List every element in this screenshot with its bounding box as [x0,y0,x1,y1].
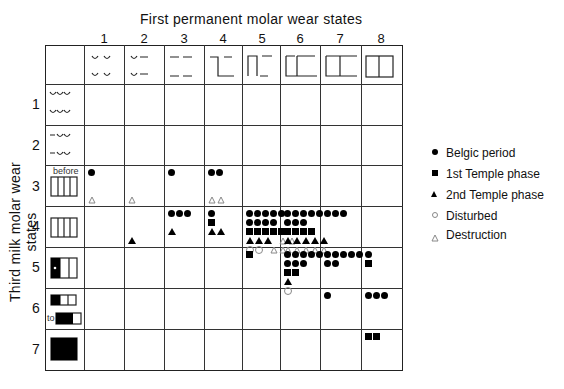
filled-circle-icon [340,210,347,217]
filled-square-icon [365,260,372,267]
filled-circle-icon [432,149,438,155]
filled-circle-icon [208,210,215,217]
cell-row4-col2 [128,210,137,246]
cell-row5-col8 [365,251,373,269]
filled-triangle-icon [128,237,136,244]
filled-circle-icon [324,210,331,217]
filled-circle-icon [246,210,253,217]
filled-square-icon [292,269,299,276]
open-triangle-icon [128,196,136,204]
filled-square-icon [208,219,215,226]
filled-triangle-icon [284,278,292,285]
open-triangle-icon [208,196,216,204]
filled-circle-icon [262,219,269,226]
filled-triangle-icon [431,191,437,197]
filled-circle-icon [262,210,269,217]
to-annotation: to [47,313,55,323]
filled-triangle-icon [255,237,263,244]
filled-circle-icon [348,251,355,258]
open-triangle-icon [431,231,439,245]
filled-circle-icon [332,210,339,217]
cell-row3-col2 [128,169,137,205]
filled-circle-icon [373,292,380,299]
cell-row3-col4 [208,169,226,205]
filled-circle-icon [316,251,323,258]
filled-circle-icon [340,251,347,258]
cell-row3-col3 [168,169,176,178]
filled-circle-icon [284,251,291,258]
filled-circle-icon [176,210,183,217]
filled-circle-icon [284,260,291,267]
filled-triangle-icon [246,237,254,244]
filled-circle-icon [208,169,215,176]
cell-row4-col4 [208,210,226,237]
cell-row6-col7 [324,292,332,301]
filled-square-icon [292,228,299,235]
filled-circle-icon [292,219,299,226]
filled-circle-icon [324,260,331,267]
filled-square-icon [284,269,291,276]
open-circle-icon [255,246,263,254]
cell-row3-col1 [88,169,97,205]
filled-circle-icon [88,169,95,176]
filled-circle-icon [300,210,307,217]
filled-circle-icon [168,210,175,217]
filled-circle-icon [184,210,191,217]
cell-row4-col3 [168,210,192,237]
filled-triangle-icon [284,237,292,244]
open-triangle-icon [88,196,96,204]
filled-circle-icon [254,210,261,217]
filled-square-icon [270,228,277,235]
filled-circle-icon [365,292,372,299]
filled-triangle-icon [217,228,225,235]
cell-row4-col6 [284,210,329,255]
open-circle-icon [432,212,438,218]
filled-square-icon [284,228,291,235]
filled-circle-icon [356,251,363,258]
filled-square-icon [365,333,372,340]
filled-circle-icon [365,251,372,258]
filled-square-icon [432,170,438,176]
filled-circle-icon [216,169,223,176]
filled-circle-icon [292,210,299,217]
open-circle-icon [284,287,292,295]
filled-circle-icon [246,219,253,226]
filled-circle-icon [270,210,277,217]
filled-circle-icon [308,210,315,217]
cell-row5-col6 [284,251,324,296]
filled-triangle-icon [302,237,310,244]
filled-circle-icon [332,260,339,267]
open-triangle-icon [270,246,278,254]
filled-circle-icon [300,260,307,267]
filled-square-icon [308,228,315,235]
filled-circle-icon [168,169,175,176]
filled-triangle-icon [320,237,328,244]
filled-square-icon [246,228,253,235]
filled-triangle-icon [311,237,319,244]
filled-circle-icon [270,219,277,226]
filled-square-icon [246,251,253,258]
filled-circle-icon [308,251,315,258]
filled-circle-icon [292,251,299,258]
filled-triangle-icon [208,228,216,235]
filled-square-icon [254,228,261,235]
filled-square-icon [262,228,269,235]
filled-circle-icon [324,251,331,258]
cell-row7-col8 [365,333,381,342]
filled-circle-icon [254,219,261,226]
filled-triangle-icon [293,237,301,244]
filled-circle-icon [284,210,291,217]
filled-square-icon [373,333,380,340]
filled-circle-icon [300,251,307,258]
filled-circle-icon [300,219,307,226]
filled-triangle-icon [168,228,176,235]
filled-circle-icon [316,210,323,217]
filled-circle-icon [284,219,291,226]
cell-row5-col7 [324,251,364,269]
before-annotation: before [53,166,79,176]
cell-row4-col7 [324,210,348,219]
cell-row6-col8 [365,292,389,301]
open-triangle-icon [217,196,225,204]
filled-circle-icon [292,260,299,267]
filled-circle-icon [324,292,331,299]
